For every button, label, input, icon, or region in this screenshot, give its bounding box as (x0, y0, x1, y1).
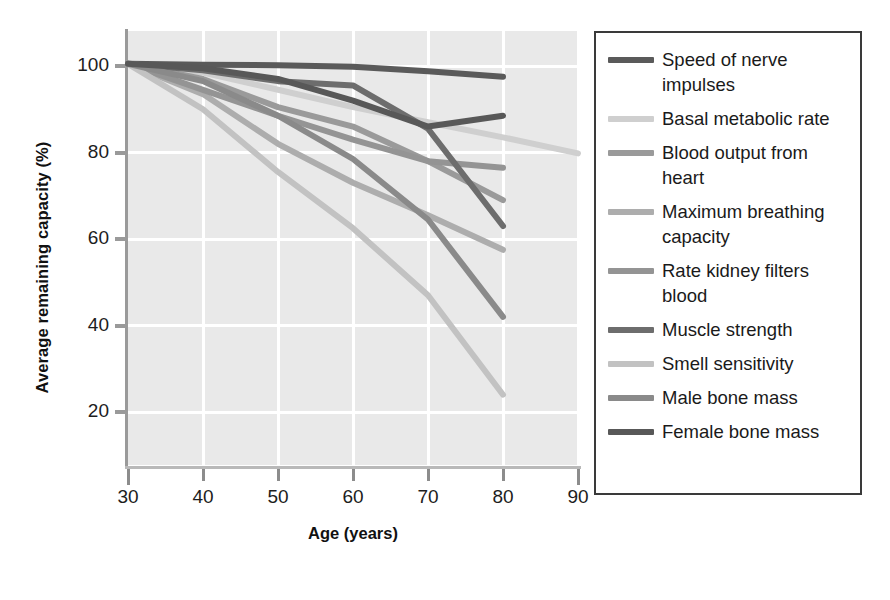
legend-swatch-icon (608, 209, 654, 215)
x-tick (352, 469, 355, 481)
y-tick (115, 64, 126, 68)
legend-swatch-icon (608, 327, 654, 333)
x-tick-label: 70 (398, 486, 458, 508)
legend-items: Speed of nerve impulsesBasal metabolic r… (608, 47, 852, 453)
legend-label: Male bone mass (662, 385, 798, 410)
x-tick (577, 469, 580, 485)
legend-label: Speed of nerve impulses (662, 47, 852, 97)
legend-label: Rate kidney filters blood (662, 258, 852, 308)
series-line (128, 64, 503, 395)
legend-swatch-icon (608, 150, 654, 156)
legend-item[interactable]: Rate kidney filters blood (608, 258, 852, 308)
y-tick-label: 20 (55, 400, 109, 422)
legend-swatch-icon (608, 116, 654, 122)
y-tick-label: 80 (55, 141, 109, 163)
legend-swatch-icon (608, 429, 654, 435)
legend-item[interactable]: Smell sensitivity (608, 351, 852, 376)
legend-item[interactable]: Maximum breathing capacity (608, 199, 852, 249)
legend-label: Muscle strength (662, 317, 793, 342)
chart-root: Average remaining capacity (%) 204060801… (0, 0, 890, 600)
legend-swatch-icon (608, 361, 654, 367)
x-tick-label: 50 (248, 486, 308, 508)
legend-label: Basal metabolic rate (662, 106, 830, 131)
x-tick (427, 469, 430, 481)
y-tick (115, 410, 126, 414)
legend-item[interactable]: Speed of nerve impulses (608, 47, 852, 97)
legend-label: Maximum breathing capacity (662, 199, 852, 249)
legend-item[interactable]: Female bone mass (608, 419, 852, 444)
legend-item[interactable]: Muscle strength (608, 317, 852, 342)
x-axis-label: Age (years) (128, 524, 578, 543)
legend-item[interactable]: Male bone mass (608, 385, 852, 410)
y-tick (115, 324, 126, 328)
x-tick-label: 80 (473, 486, 533, 508)
y-axis-label: Average remaining capacity (%) (33, 58, 52, 478)
legend-swatch-icon (608, 57, 654, 63)
legend-box: Speed of nerve impulsesBasal metabolic r… (594, 31, 862, 495)
y-tick (115, 151, 126, 155)
x-tick (277, 469, 280, 481)
plot-area (128, 31, 578, 465)
y-tick-label: 100 (55, 54, 109, 76)
legend-item[interactable]: Basal metabolic rate (608, 106, 852, 131)
y-tick-label: 60 (55, 227, 109, 249)
legend-label: Blood output from heart (662, 140, 852, 190)
x-tick-label: 40 (173, 486, 233, 508)
legend-swatch-icon (608, 395, 654, 401)
x-tick-label: 60 (323, 486, 383, 508)
x-tick-label: 30 (98, 486, 158, 508)
y-tick (115, 237, 126, 241)
x-tick (502, 469, 505, 481)
data-lines (128, 31, 578, 465)
x-tick (202, 469, 205, 481)
x-tick (127, 469, 130, 485)
y-tick-label: 40 (55, 314, 109, 336)
legend-item[interactable]: Blood output from heart (608, 140, 852, 190)
series-line (128, 64, 503, 317)
legend-swatch-icon (608, 268, 654, 274)
legend-label: Female bone mass (662, 419, 819, 444)
legend-label: Smell sensitivity (662, 351, 794, 376)
